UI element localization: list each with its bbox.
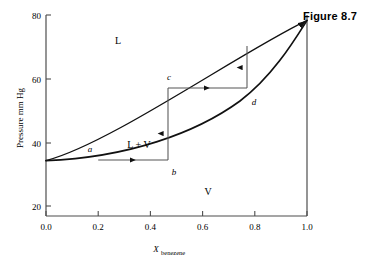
x-tick-label-1.0: 1.0 bbox=[301, 222, 313, 232]
x-tick-label-0.4: 0.4 bbox=[145, 222, 157, 232]
x-axis-title-main: X bbox=[152, 244, 159, 254]
region-label-vapor: V bbox=[204, 186, 212, 197]
axis-spines bbox=[46, 15, 307, 216]
y-axis-tick-labels: 80 60 40 20 bbox=[32, 11, 42, 212]
point-label-d: d bbox=[252, 97, 257, 107]
figure-caption: Figure 8.7 bbox=[303, 10, 357, 22]
region-label-liquid: L bbox=[115, 35, 121, 46]
x-tick-label-0.6: 0.6 bbox=[197, 222, 209, 232]
y-tick-label-60: 60 bbox=[32, 75, 42, 85]
x-axis-title: X benezene bbox=[152, 244, 185, 256]
x-tick-label-0.2: 0.2 bbox=[93, 222, 104, 232]
x-tick-label-0.8: 0.8 bbox=[249, 222, 261, 232]
y-axis-ticks bbox=[46, 15, 51, 206]
point-label-b: b bbox=[172, 167, 177, 177]
y-axis-title: Pressure mm Hg bbox=[15, 88, 25, 148]
phase-diagram-chart: 80 60 40 20 0.0 0.2 0.4 0.6 0.8 1.0 Pres… bbox=[0, 0, 376, 266]
figure-page: 80 60 40 20 0.0 0.2 0.4 0.6 0.8 1.0 Pres… bbox=[0, 0, 376, 266]
liquid-bubble-curve bbox=[46, 20, 307, 160]
point-label-a: a bbox=[88, 144, 93, 154]
x-axis-ticks bbox=[46, 211, 307, 216]
x-axis-tick-labels: 0.0 0.2 0.4 0.6 0.8 1.0 bbox=[40, 222, 313, 232]
x-tick-label-0.0: 0.0 bbox=[40, 222, 52, 232]
y-tick-label-20: 20 bbox=[32, 202, 42, 212]
y-tick-label-80: 80 bbox=[32, 11, 42, 21]
y-tick-label-40: 40 bbox=[32, 139, 42, 149]
x-axis-title-subscript: benezene bbox=[161, 249, 185, 256]
point-label-c: c bbox=[167, 72, 171, 82]
region-label-liquid-vapor: L + V bbox=[127, 139, 151, 150]
